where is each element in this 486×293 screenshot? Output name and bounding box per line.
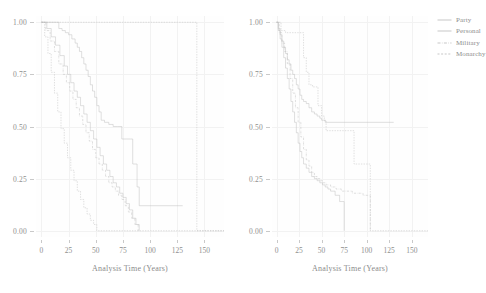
x-tick-mark [299, 240, 300, 243]
legend-swatch-personal [437, 27, 452, 35]
x-tick-label: 25 [295, 246, 303, 255]
curve-monarchy-top [41, 22, 224, 230]
x-tick-mark [123, 240, 124, 243]
legend-label: Personal [456, 27, 481, 35]
curves-svg-left [36, 16, 224, 237]
y-tick-mark [266, 74, 270, 75]
y-tick-label: 0.00 [249, 226, 263, 235]
curve-personal [41, 22, 139, 230]
x-tick-label: 25 [65, 246, 73, 255]
y-tick-mark [30, 74, 34, 75]
y-tick-mark [30, 231, 34, 232]
legend-item-monarchy[interactable]: Monarchy [437, 49, 475, 61]
x-tick-label: 125 [172, 246, 183, 255]
y-tick-mark [30, 127, 34, 128]
plot-area-left: 0.000.250.500.751.00 0255075100125150 [36, 16, 224, 237]
curve-military [41, 22, 138, 230]
curves-right [272, 16, 428, 237]
curves-svg-right [272, 16, 428, 237]
legend-item-military[interactable]: Military [437, 37, 475, 49]
x-tick-mark [389, 240, 390, 243]
legend-item-party[interactable]: Party [437, 14, 475, 26]
legend-item-personal[interactable]: Personal [437, 26, 475, 38]
y-tick-label: 0.25 [249, 174, 263, 183]
y-tick-label: 0.75 [13, 70, 27, 79]
y-tick-mark [266, 179, 270, 180]
legend: PartyPersonalMilitaryMonarchy [437, 14, 475, 60]
x-tick-mark [204, 240, 205, 243]
panel-right: 0.000.250.500.751.00 0255075100125150 An… [236, 0, 436, 293]
x-tick-mark [96, 240, 97, 243]
y-tick-mark [266, 127, 270, 128]
panel-left: 0.000.250.500.751.00 0255075100125150 An… [0, 0, 232, 293]
y-tick-label: 0.25 [13, 174, 27, 183]
x-tick-label: 100 [144, 246, 155, 255]
x-tick-mark [277, 240, 278, 243]
y-tick-mark [266, 231, 270, 232]
x-tick-mark [322, 240, 323, 243]
x-tick-mark [177, 240, 178, 243]
y-tick-label: 1.00 [13, 18, 27, 27]
x-tick-mark [344, 240, 345, 243]
legend-swatch-monarchy [437, 50, 452, 58]
x-tick-label: 0 [275, 246, 279, 255]
x-axis-title-left: Analysis Time (Years) [36, 264, 224, 273]
x-tick-label: 50 [92, 246, 100, 255]
y-tick-label: 0.50 [13, 122, 27, 131]
x-tick-label: 75 [119, 246, 127, 255]
curve-military [277, 22, 371, 230]
y-tick-label: 0.75 [249, 70, 263, 79]
curve-monarchy [41, 22, 224, 230]
y-tick-label: 1.00 [249, 18, 263, 27]
x-tick-label: 50 [318, 246, 326, 255]
x-tick-mark [69, 240, 70, 243]
y-tick-mark [266, 22, 270, 23]
y-tick-label: 0.00 [13, 226, 27, 235]
x-tick-label: 100 [361, 246, 372, 255]
legend-label: Party [456, 16, 471, 24]
x-axis-title-right: Analysis Time (Years) [272, 264, 428, 273]
x-tick-label: 0 [40, 246, 44, 255]
y-tick-mark [30, 22, 34, 23]
x-tick-mark [367, 240, 368, 243]
legend-swatch-military [437, 39, 452, 47]
y-tick-mark [30, 179, 34, 180]
x-tick-label: 150 [406, 246, 417, 255]
curves-left [36, 16, 224, 237]
plot-area-right: 0.000.250.500.751.00 0255075100125150 [272, 16, 428, 237]
x-tick-label: 75 [340, 246, 348, 255]
curve-party [41, 22, 182, 205]
x-tick-label: 150 [199, 246, 210, 255]
y-tick-label: 0.50 [249, 122, 263, 131]
legend-label: Military [456, 39, 480, 47]
x-tick-label: 125 [384, 246, 395, 255]
curve-monarchy [277, 22, 428, 230]
x-tick-mark [150, 240, 151, 243]
x-tick-mark [412, 240, 413, 243]
legend-label: Monarchy [456, 50, 486, 58]
legend-swatch-party [437, 16, 452, 24]
curve-party [277, 22, 394, 122]
x-tick-mark [41, 240, 42, 243]
